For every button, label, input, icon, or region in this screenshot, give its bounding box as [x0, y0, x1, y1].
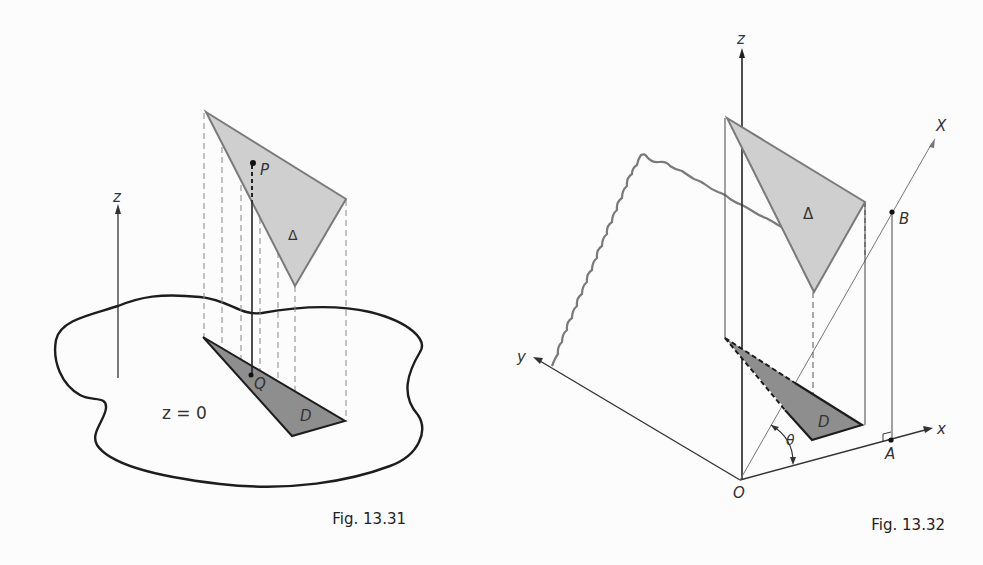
delta-label: Δ	[803, 205, 814, 223]
angle-theta-label: θ	[786, 432, 795, 448]
y-axis-arrowhead	[533, 357, 543, 364]
point-Q-dot	[249, 373, 254, 378]
region-D-label: D	[300, 407, 312, 425]
z-axis-arrowhead	[739, 48, 745, 58]
z-axis-label: z	[736, 30, 746, 48]
figure-13-32: z y x X Δ D θ	[516, 30, 947, 534]
figure-canvas: z Δ D P Q z = 0 Fig. 13.31	[0, 0, 983, 565]
delta-label: Δ	[288, 227, 298, 243]
point-P-label: P	[260, 161, 270, 179]
point-P-dot	[250, 160, 256, 166]
z-axis-arrow	[115, 204, 121, 378]
figure-caption: Fig. 13.32	[871, 516, 945, 534]
region-D-triangle	[725, 338, 862, 440]
X-axis-label: X	[935, 117, 947, 135]
z-axis-label: z	[112, 188, 122, 206]
plane-region-blob	[55, 295, 422, 486]
figure-caption: Fig. 13.31	[332, 510, 406, 528]
point-A-label: A	[884, 445, 895, 463]
region-D-triangle	[203, 337, 345, 436]
y-axis-label: y	[516, 348, 527, 366]
point-B-dot	[889, 209, 894, 214]
point-A-dot	[888, 437, 893, 442]
point-B-label: B	[899, 210, 909, 228]
y-axis	[540, 361, 740, 480]
x-axis-arrowhead	[923, 426, 933, 433]
plane-equation-label: z = 0	[162, 403, 207, 423]
figure-13-31: z Δ D P Q z = 0 Fig. 13.31	[55, 112, 422, 528]
x-axis	[740, 430, 925, 480]
region-D-label: D	[818, 413, 830, 431]
angle-arrowhead-bottom	[790, 457, 796, 465]
surface-triangle-delta	[206, 112, 346, 286]
X-axis-arrowhead	[929, 138, 935, 148]
surface-triangle-delta	[727, 118, 865, 292]
origin-label: O	[733, 484, 745, 502]
point-Q-label: Q	[254, 375, 266, 393]
x-axis-label: x	[936, 420, 946, 438]
